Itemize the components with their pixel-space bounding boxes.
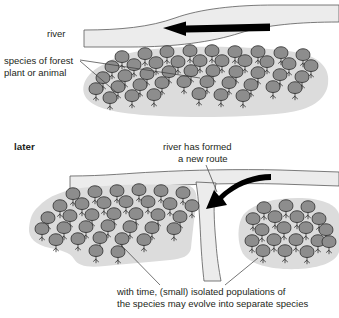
species-label-line2: plant or animal (4, 67, 66, 78)
new-route-label-line2: a new route (178, 153, 228, 164)
speciation-diagram: river species of forest plant or animal … (0, 0, 339, 318)
caption-line2: the species may evolve into separate spe… (117, 298, 308, 309)
stage-label-later: later (14, 141, 35, 152)
diagram-page: river species of forest plant or animal … (0, 0, 339, 318)
species-label-line1: species of forest (4, 55, 74, 66)
river-label: river (47, 28, 65, 39)
caption-leader-line-east (225, 258, 258, 285)
caption-line1: with time, (small) isolated populations … (116, 286, 286, 297)
new-route-label-line1: river has formed (163, 141, 232, 152)
